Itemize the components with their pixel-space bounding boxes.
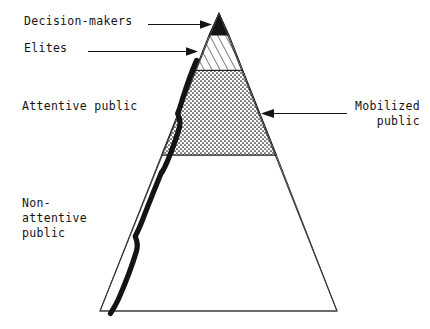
label-non-attentive-public: Non- attentive public bbox=[22, 196, 87, 241]
pyramid-diagram: Decision-makers Elites Attentive public … bbox=[0, 0, 430, 329]
band-elites bbox=[195, 35, 243, 71]
label-attentive-public: Attentive public bbox=[22, 99, 138, 114]
arrow-decision-makers bbox=[148, 20, 212, 29]
arrow-elites bbox=[88, 47, 198, 56]
label-elites: Elites bbox=[24, 41, 67, 56]
label-decision-makers: Decision-makers bbox=[24, 14, 132, 29]
arrow-mobilized-public bbox=[261, 109, 347, 118]
label-mobilized-public: Mobilized public bbox=[355, 99, 420, 129]
